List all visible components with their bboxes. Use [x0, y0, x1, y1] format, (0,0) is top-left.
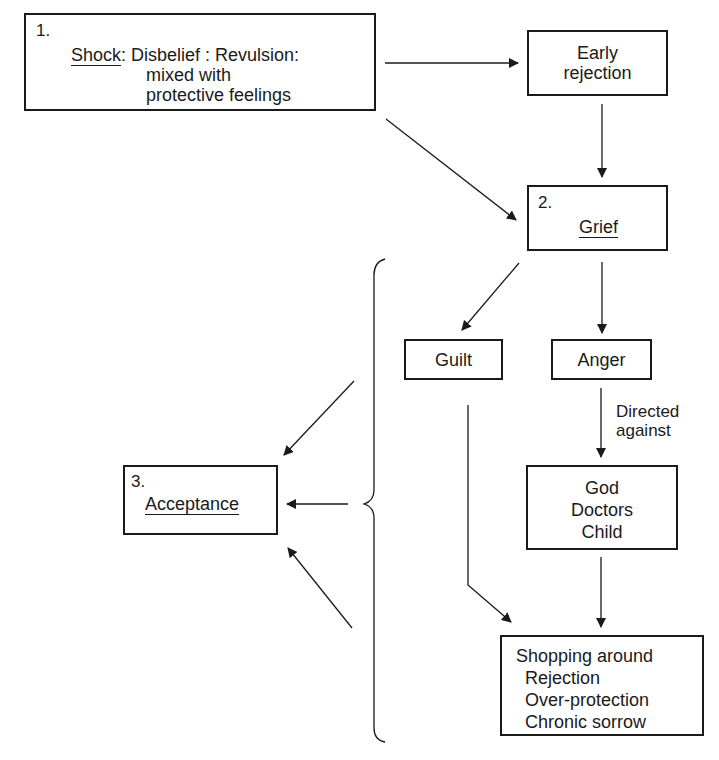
arrow-shock-to-grief: [386, 119, 516, 220]
arrow-to-acceptance-upper: [284, 381, 354, 455]
node-shock-line3: protective feelings: [146, 85, 291, 105]
stage-number: 3.: [131, 472, 145, 492]
stage-number: 2.: [538, 193, 552, 213]
node-targets-line1: God: [528, 478, 676, 498]
node-targets: God Doctors Child: [526, 465, 678, 550]
curly-brace: [364, 259, 385, 742]
stage-title: Acceptance: [145, 494, 239, 514]
node-anger-label: Anger: [553, 350, 650, 370]
arrow-to-acceptance-lower: [288, 548, 352, 628]
edge-label-directed-against-line2: against: [616, 421, 671, 441]
node-shock-line2: mixed with: [146, 65, 231, 85]
node-early-rejection-line1: Early: [529, 43, 666, 63]
node-early-rejection-line2: rejection: [529, 63, 666, 83]
node-outcomes-line1: Shopping around: [516, 646, 653, 666]
node-outcomes-line3: Over-protection: [525, 690, 649, 710]
node-guilt-label: Guilt: [406, 350, 501, 370]
node-targets-line3: Child: [528, 522, 676, 542]
node-shock: 1. Shock: Disbelief : Revulsion: mixed w…: [24, 13, 376, 111]
node-outcomes: Shopping around Rejection Over-protectio…: [500, 635, 704, 736]
node-acceptance: 3. Acceptance: [123, 465, 278, 535]
stage-title: Grief: [579, 217, 618, 237]
node-targets-line2: Doctors: [528, 500, 676, 520]
arrow-grief-to-guilt: [462, 263, 519, 330]
node-guilt: Guilt: [404, 339, 503, 380]
node-outcomes-line4: Chronic sorrow: [525, 712, 646, 732]
node-grief: 2. Grief: [527, 185, 668, 251]
stage-title: Shock: [71, 45, 121, 65]
node-anger: Anger: [551, 339, 652, 380]
stage-number: 1.: [36, 21, 50, 41]
arrow-guilt-to-outcomes: [468, 405, 511, 622]
edge-label-directed-against-line1: Directed: [616, 402, 679, 422]
node-shock-line1: Shock: Disbelief : Revulsion:: [71, 45, 299, 65]
node-early-rejection: Early rejection: [527, 30, 668, 96]
node-outcomes-line2: Rejection: [525, 668, 600, 688]
